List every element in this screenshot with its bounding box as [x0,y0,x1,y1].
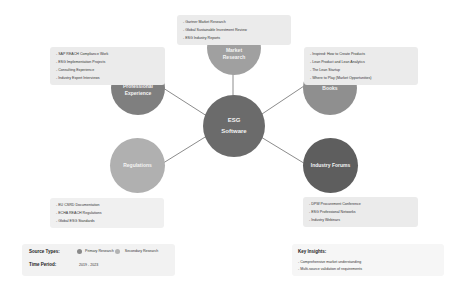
list-item: Industry Expert Interviews [56,74,159,82]
primary-research-swatch-icon [77,249,82,254]
list-item: - Comprehensive market understanding [298,259,362,266]
esg-mind-map: ESG Software Market Research Gartner Mar… [0,0,459,295]
list-item: Global Sustainable Investment Review [183,26,285,34]
list-item: Gartner Market Research [183,18,285,26]
center-node-line1: ESG [221,115,246,126]
node-regulations[interactable]: Regulations [110,138,165,193]
list-item: ECHA REACH Regulations [56,209,158,217]
node-regulations-label: Regulations [123,162,152,170]
center-node-esg-software[interactable]: ESG Software [203,95,265,157]
list-item: EU CSRD Documentation [56,201,158,209]
node-market-research-line1: Market [223,47,246,55]
list-item: ESG Professional Networks [309,208,412,216]
market-research-sources: Gartner Market Research Global Sustainab… [177,15,291,45]
legend-panel: Source Types: Primary ResearchSecondary … [22,244,175,276]
list-item: DPW Procurement Conference [309,200,412,208]
list-item: ESG Industry Reports [183,34,285,42]
insight-text: Comprehensive market understanding [300,260,361,264]
key-insights-list: - Comprehensive market understanding - M… [298,259,362,273]
list-item: Where to Play (Market Opportunities) [310,74,412,82]
source-types-legend: Primary ResearchSecondary Research [77,249,158,254]
node-professional-experience-line2: Experience [123,90,153,98]
list-item: Global ESG Standards [56,217,158,225]
list-item: Lean Product and Lean Analytics [310,58,412,66]
secondary-research-label: Secondary Research [125,249,159,253]
industry-forums-sources: DPW Procurement Conference ESG Professio… [303,197,418,227]
key-insights-panel: Key Insights: - Comprehensive market und… [292,244,444,276]
node-market-research-line2: Research [223,54,246,62]
list-item: Industry Webinars [309,216,412,224]
node-industry-forums-label: Industry Forums [311,162,350,170]
insight-text: Multi-source validation of requirements [300,267,362,271]
list-item: SAP REACH Compliance Work [56,50,159,58]
time-period-label: Time Period: [29,262,56,267]
node-books-label: Books [322,85,337,93]
time-period-value: 2019 - 2023 [79,263,98,267]
list-item: Consulting Experience [56,66,159,74]
node-industry-forums[interactable]: Industry Forums [303,138,358,193]
list-item: Inspired: How to Create Products [310,50,412,58]
books-sources: Inspired: How to Create Products Lean Pr… [304,47,418,85]
list-item: - Multi-source validation of requirement… [298,266,362,273]
key-insights-title: Key Insights: [298,249,326,254]
regulations-sources: EU CSRD Documentation ECHA REACH Regulat… [50,198,164,228]
list-item: The Lean Startup [310,66,412,74]
source-types-label: Source Types: [29,249,60,254]
secondary-research-swatch-icon [115,249,120,254]
professional-experience-sources: SAP REACH Compliance Work ESG Implementa… [50,47,165,85]
primary-research-label: Primary Research [85,249,114,253]
center-node-line2: Software [221,126,246,137]
list-item: ESG Implementation Projects [56,58,159,66]
